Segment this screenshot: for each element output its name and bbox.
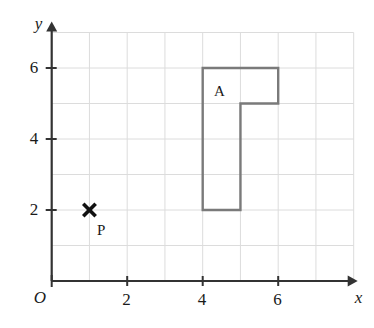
x-tick-label: 4 xyxy=(198,291,207,308)
plot-canvas xyxy=(0,0,374,328)
x-axis-label: x xyxy=(355,289,363,306)
y-tick-label: 6 xyxy=(30,59,39,76)
x-tick-label: 2 xyxy=(122,291,131,308)
y-axis-label: y xyxy=(35,15,43,32)
y-tick-label: 4 xyxy=(30,130,39,147)
coordinate-grid-figure: y x O 246 246 A P xyxy=(0,0,374,328)
origin-label: O xyxy=(34,289,46,306)
y-axis-arrowhead xyxy=(46,21,57,31)
x-axis-arrowhead xyxy=(348,276,358,287)
y-tick-label: 2 xyxy=(30,201,39,218)
axis-ticks xyxy=(46,68,279,287)
x-tick-label: 6 xyxy=(273,291,282,308)
point-label-p: P xyxy=(97,223,105,238)
shape-label-a: A xyxy=(214,84,225,99)
